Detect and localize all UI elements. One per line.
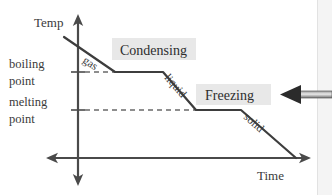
- boiling-point-label-line1: boiling: [9, 57, 45, 71]
- boiling-point-label-line2: point: [9, 74, 35, 88]
- y-axis: [73, 14, 83, 186]
- boiling-point-label: boiling point: [9, 57, 45, 88]
- cooling-curve-diagram: Temp Time boiling point melting point Co…: [0, 0, 332, 195]
- x-axis-label: Time: [257, 168, 284, 183]
- x-axis: [46, 153, 311, 163]
- melting-point-label: melting point: [9, 95, 48, 126]
- gas-label: gas: [80, 54, 100, 74]
- condensing-label: Condensing: [120, 43, 187, 58]
- pointer-arrow: [280, 85, 332, 104]
- y-axis-label: Temp: [34, 15, 63, 30]
- freezing-label: Freezing: [205, 88, 254, 103]
- solid-label: solid: [242, 110, 267, 134]
- melting-point-label-line2: point: [9, 112, 35, 126]
- melting-point-label-line1: melting: [9, 95, 48, 109]
